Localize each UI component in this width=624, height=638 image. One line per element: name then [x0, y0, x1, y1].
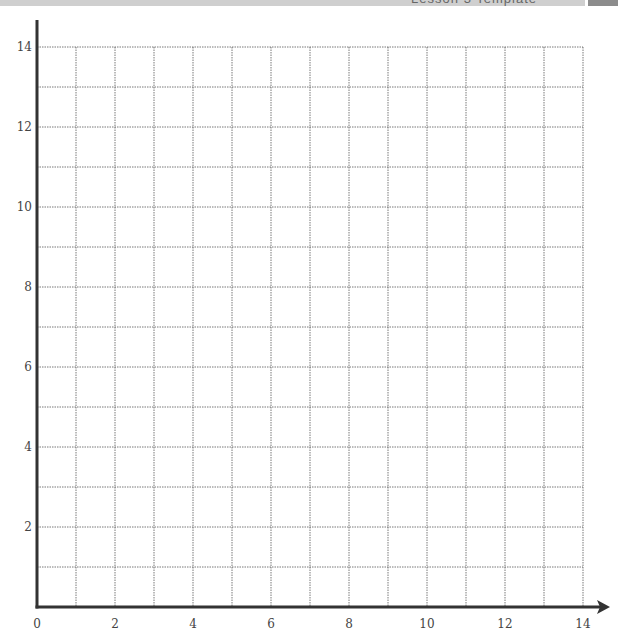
x-tick-label: 2 [111, 617, 119, 631]
x-tick-label: 10 [419, 617, 434, 631]
x-tick-label: 12 [497, 617, 512, 631]
y-tick-label: 14 [17, 40, 33, 54]
y-tick-label: 6 [24, 360, 32, 374]
x-tick-label: 6 [267, 617, 275, 631]
x-tick-label: 4 [189, 617, 197, 631]
y-tick-label: 12 [17, 120, 32, 134]
y-tick-label: 2 [24, 520, 32, 534]
y-tick-label: 10 [17, 200, 32, 214]
x-tick-label: 0 [33, 617, 41, 631]
x-tick-label: 14 [575, 617, 591, 631]
y-tick-label: 8 [24, 280, 32, 294]
coordinate-grid: 024681012142468101214 [0, 0, 624, 638]
y-tick-label: 4 [24, 440, 32, 454]
x-tick-label: 8 [345, 617, 353, 631]
